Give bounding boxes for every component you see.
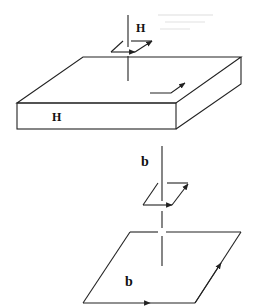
top-figure: H H <box>17 15 241 129</box>
diagram-canvas: H H b b <box>0 0 254 306</box>
bleed-through-text <box>158 14 213 30</box>
slab-side-face <box>176 57 241 129</box>
conducting-slab <box>17 57 241 129</box>
surface-current-arrow <box>150 83 185 93</box>
bottom-figure: b b <box>83 146 241 303</box>
slab-front-face <box>17 103 176 129</box>
small-loop-b <box>143 183 188 205</box>
field-label-b: b <box>141 154 149 169</box>
slab-top-face <box>17 57 241 103</box>
slab-label-h: H <box>52 110 62 124</box>
small-loop-h <box>111 41 152 52</box>
field-label-h: H <box>136 21 146 35</box>
loop-label-b: b <box>125 274 133 289</box>
